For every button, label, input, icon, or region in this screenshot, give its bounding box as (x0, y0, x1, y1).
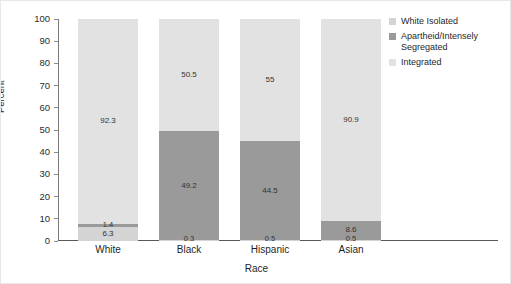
bar-segment[interactable]: 0.5 (321, 240, 381, 241)
legend-item-integrated[interactable]: Integrated (389, 57, 507, 67)
y-axis-tick-label: 60 (39, 103, 50, 113)
bar-segment-value-label: 6.3 (78, 230, 138, 238)
bar-stack[interactable]: 92.31.46.3 (78, 19, 138, 241)
bar-segment-value-label: 44.5 (240, 187, 300, 195)
y-axis-tick-label: 10 (39, 214, 50, 224)
bar-segment[interactable]: 55 (240, 19, 300, 141)
y-axis-tick-label: 70 (39, 81, 50, 91)
x-axis-category-label: Asian (296, 244, 406, 255)
bar-segment[interactable]: 0.5 (240, 240, 300, 241)
y-axis-tick-label: 80 (39, 59, 50, 69)
legend-item-apartheid-intensely-segregated[interactable]: Apartheid/Intensely Segregated (389, 31, 507, 52)
bar-stack[interactable]: 90.98.60.5 (321, 19, 381, 241)
bar-segment-value-label: 8.6 (321, 226, 381, 234)
bar-segment[interactable]: 6.3 (78, 227, 138, 241)
bar-segment-value-label: 55 (240, 76, 300, 84)
bar-segment-value-label: 90.9 (321, 116, 381, 124)
legend-swatch-icon (389, 18, 396, 25)
stacked-bar-chart: Percent 1009080706050403020100 92.31.46.… (0, 0, 511, 284)
legend-swatch-icon (389, 59, 396, 66)
y-axis-tick-label: 40 (39, 147, 50, 157)
y-axis-tick-label: 100 (34, 14, 50, 24)
bar-stack[interactable]: 50.549.20.3 (159, 19, 219, 241)
legend-item-white-isolated[interactable]: White Isolated (389, 16, 507, 26)
legend-label: Integrated (401, 57, 442, 67)
bar-segment[interactable]: 8.6 (321, 221, 381, 240)
bar-segment[interactable]: 44.5 (240, 141, 300, 240)
y-axis-tick-label: 30 (39, 170, 50, 180)
plot-area: 92.31.46.350.549.20.35544.50.590.98.60.5 (58, 19, 381, 241)
legend-label: Apartheid/Intensely Segregated (401, 31, 507, 52)
bar-stack[interactable]: 5544.50.5 (240, 19, 300, 241)
legend: White Isolated Apartheid/Intensely Segre… (389, 16, 507, 72)
bar-segment-value-label: 50.5 (159, 71, 219, 79)
bar-segment-value-label: 92.3 (78, 117, 138, 125)
legend-swatch-icon (389, 33, 396, 40)
legend-label: White Isolated (401, 16, 458, 26)
y-axis-title: Percent (0, 80, 6, 113)
bar-segment[interactable]: 90.9 (321, 19, 381, 221)
y-axis-tick-label: 50 (39, 125, 50, 135)
bar-segment[interactable]: 50.5 (159, 19, 219, 131)
y-axis-tick-label: 0 (45, 236, 50, 246)
bar-segment-value-label: 49.2 (159, 182, 219, 190)
bar-segment[interactable]: 0.3 (159, 240, 219, 241)
bar-segment[interactable]: 49.2 (159, 131, 219, 240)
x-axis-title: Race (1, 263, 511, 274)
y-axis-tick-label: 20 (39, 192, 50, 202)
y-axis-tick-label: 90 (39, 36, 50, 46)
bar-segment[interactable]: 92.3 (78, 19, 138, 224)
